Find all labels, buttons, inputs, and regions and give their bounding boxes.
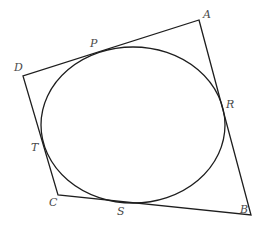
label-vertex-d: D: [13, 61, 23, 74]
label-vertex-a: A: [202, 8, 211, 21]
inscribed-circle: [41, 47, 225, 203]
label-tangent-t: T: [31, 141, 40, 154]
diagram-canvas: A B C D P R T S: [0, 0, 265, 231]
label-tangent-s: S: [117, 205, 125, 218]
label-vertex-b: B: [239, 203, 248, 216]
geometry-diagram: A B C D P R T S: [0, 0, 265, 231]
label-tangent-p: P: [89, 37, 98, 50]
label-vertex-c: C: [49, 196, 58, 209]
label-tangent-r: R: [225, 98, 234, 111]
quadrilateral-abcd: [23, 20, 251, 215]
